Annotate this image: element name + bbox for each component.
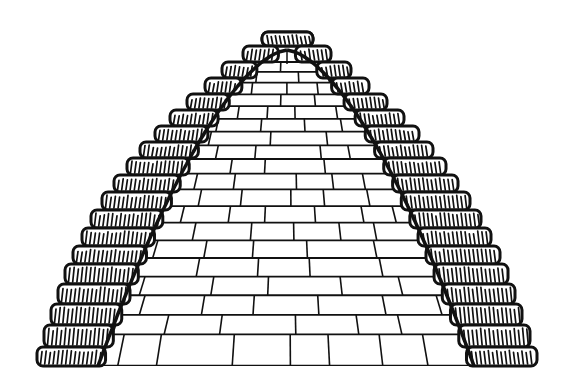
- stepped-stone-right: [262, 32, 313, 46]
- stepped-stone-right: [450, 304, 522, 325]
- stepped-stone-right: [410, 210, 481, 228]
- stepped-stone-left: [51, 304, 122, 325]
- stepped-stone-right: [466, 347, 537, 366]
- stepped-stone-right: [442, 284, 515, 304]
- stepped-stone-left: [73, 246, 146, 264]
- stepped-stone-left: [65, 264, 138, 284]
- stepped-stone-right: [459, 325, 530, 347]
- stepped-stone-left: [127, 158, 189, 175]
- corbelled-dome-illustration: [0, 0, 578, 392]
- stepped-stone-left: [114, 175, 180, 192]
- stepped-stone-right: [384, 158, 446, 175]
- stepped-stone-right: [418, 228, 491, 246]
- stepped-stone-right: [393, 175, 458, 192]
- stepped-stone-right: [426, 246, 500, 264]
- stepped-stone-left: [91, 210, 163, 228]
- stepped-stone-left: [44, 325, 113, 347]
- stepped-stone-right: [434, 264, 508, 284]
- stepped-stone-left: [58, 284, 130, 304]
- stepped-stone-left: [82, 228, 154, 246]
- stepped-stone-left: [102, 192, 171, 210]
- stepped-stone-right: [401, 192, 470, 210]
- stepped-stone-left: [37, 347, 106, 366]
